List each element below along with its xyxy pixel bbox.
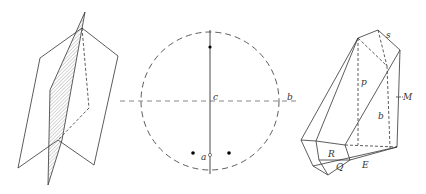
label-c: c (213, 92, 218, 102)
label-b: b (287, 92, 293, 102)
label-p: p (361, 77, 367, 87)
twin-planes-figure (18, 12, 118, 185)
figure-canvas: c b a s p M b R Q E (0, 0, 426, 194)
label-Q: Q (336, 162, 344, 172)
stereogram-figure: c b a (120, 30, 300, 174)
label-s: s (386, 30, 391, 40)
label-M: M (402, 92, 413, 102)
crystal-figure: s p M b R Q E (301, 30, 413, 175)
label-b2: b (378, 111, 384, 121)
label-a: a (201, 152, 206, 162)
label-R: R (327, 149, 335, 159)
label-E: E (361, 160, 369, 170)
